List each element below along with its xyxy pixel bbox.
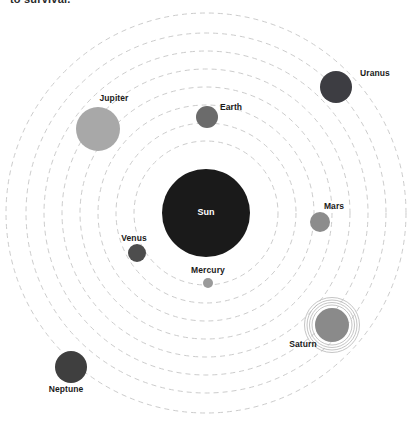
planet-jupiter[interactable] [76, 107, 120, 151]
planet-mercury[interactable] [203, 278, 213, 288]
planet-sun[interactable] [162, 169, 250, 257]
planet-uranus[interactable] [320, 71, 352, 103]
solar-system-svg [0, 0, 417, 425]
planet-earth[interactable] [196, 106, 218, 128]
solar-system-diagram-page: to survival. SunMercuryVenusEarthMarsJup… [0, 0, 417, 425]
planet-neptune[interactable] [55, 351, 87, 383]
planet-saturn[interactable] [315, 308, 349, 342]
planet-venus[interactable] [128, 244, 146, 262]
planet-mars[interactable] [310, 212, 330, 232]
celestial-bodies-group [55, 71, 360, 383]
